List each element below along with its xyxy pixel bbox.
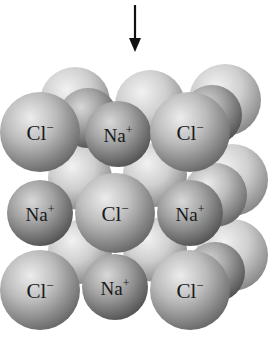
ion-chloride: Cl− [0, 250, 80, 330]
front-face: Cl− Na+ Cl− Na+ Cl− Na+ [0, 92, 230, 330]
ion-sodium: Na+ [85, 101, 151, 167]
ion-sodium: Na+ [7, 180, 73, 246]
lattice-svg: Cl− Na+ Cl− Na+ Cl− Na+ [0, 0, 279, 356]
ion-chloride: Cl− [150, 92, 230, 172]
nacl-lattice-diagram: Cl− Na+ Cl− Na+ Cl− Na+ [0, 0, 279, 356]
down-arrow-icon [129, 5, 141, 52]
ion-sodium: Na+ [82, 254, 148, 320]
ion-sodium: Na+ [157, 180, 223, 246]
ion-chloride: Cl− [150, 250, 230, 330]
ion-chloride: Cl− [75, 173, 155, 253]
ion-chloride: Cl− [0, 92, 80, 172]
